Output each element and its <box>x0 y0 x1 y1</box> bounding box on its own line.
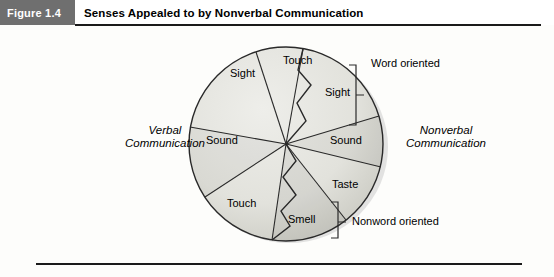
slice-label-sight-upper-left: Sight <box>230 67 255 79</box>
bracket-label-nonword-oriented: Nonword oriented <box>352 215 439 227</box>
pie-diagram: Sight Touch Sight Sound Sound Taste Smel… <box>0 25 554 263</box>
bracket-label-word-oriented: Word oriented <box>371 57 440 69</box>
nonverbal-line-1: Nonverbal <box>396 124 496 137</box>
figure-header: Figure 1.4 Senses Appealed to by Nonverb… <box>0 0 554 25</box>
side-label-verbal-communication: Verbal Communication <box>120 124 210 150</box>
footer-divider-rule <box>36 263 522 265</box>
side-label-nonverbal-communication: Nonverbal Communication <box>396 124 496 150</box>
figure-title: Senses Appealed to by Nonverbal Communic… <box>84 7 364 19</box>
figure-page: Figure 1.4 Senses Appealed to by Nonverb… <box>0 0 554 277</box>
nonverbal-line-2: Communication <box>396 137 496 150</box>
figure-number-label: Figure 1.4 <box>7 7 61 19</box>
slice-label-sight-right: Sight <box>325 86 350 98</box>
verbal-line-1: Verbal <box>120 124 210 137</box>
verbal-line-2: Communication <box>120 137 210 150</box>
slice-label-smell: Smell <box>288 213 316 225</box>
figure-title-container: Senses Appealed to by Nonverbal Communic… <box>75 0 554 25</box>
slice-label-sound-right: Sound <box>330 134 362 146</box>
slice-label-touch-top: Touch <box>283 54 312 66</box>
figure-number-tab: Figure 1.4 <box>0 0 75 25</box>
slice-label-taste: Taste <box>332 178 358 190</box>
slice-label-sound-left: Sound <box>206 134 238 146</box>
slice-label-touch-bottom: Touch <box>227 197 256 209</box>
